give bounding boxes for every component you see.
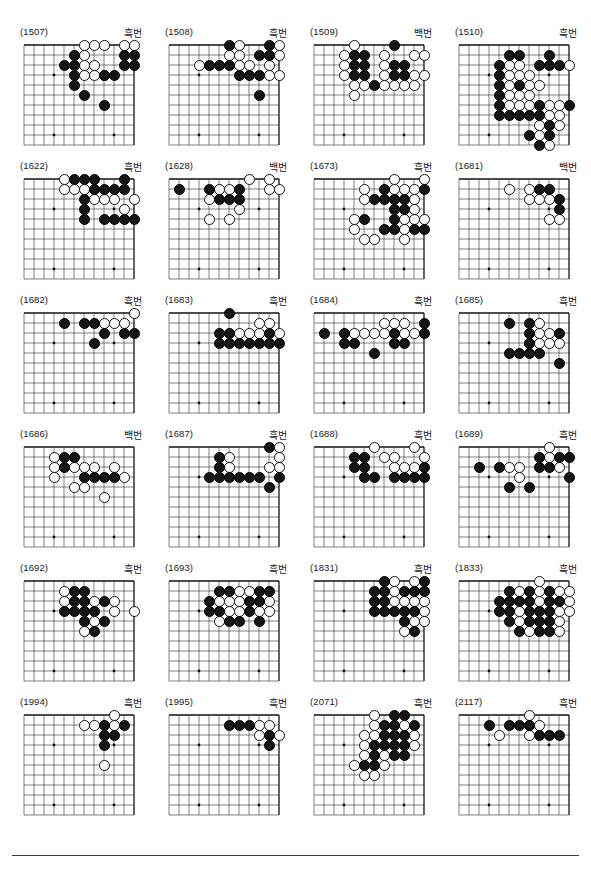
go-board[interactable] xyxy=(165,443,288,557)
black-stone xyxy=(99,596,110,607)
black-stone xyxy=(234,184,245,195)
black-stone xyxy=(319,328,330,339)
white-stone xyxy=(544,452,555,463)
problem-number: (1681) xyxy=(455,160,483,171)
white-stone xyxy=(119,318,130,329)
go-board[interactable] xyxy=(20,175,143,289)
turn-label: 흑번 xyxy=(124,695,142,710)
black-stone xyxy=(359,214,370,225)
black-stone xyxy=(214,586,225,597)
white-stone xyxy=(524,184,535,195)
white-stone xyxy=(224,184,235,195)
black-stone xyxy=(369,472,380,483)
white-stone xyxy=(409,328,420,339)
turn-label: 흑번 xyxy=(269,427,287,442)
go-board[interactable] xyxy=(165,175,288,289)
black-stone xyxy=(379,596,390,607)
black-stone xyxy=(274,472,285,483)
white-stone xyxy=(89,616,100,627)
black-stone xyxy=(339,328,350,339)
black-stone xyxy=(349,338,360,349)
black-stone xyxy=(379,586,390,597)
problem-header: (1995)흑번 xyxy=(165,696,287,711)
white-stone xyxy=(419,616,430,627)
white-stone xyxy=(349,224,360,235)
black-stone xyxy=(254,50,265,61)
black-stone xyxy=(59,60,70,71)
black-stone xyxy=(534,730,545,741)
black-stone xyxy=(119,50,130,61)
black-stone xyxy=(389,606,400,617)
go-board[interactable] xyxy=(20,443,143,557)
problem-header: (1833)흑번 xyxy=(455,562,577,577)
problem-header: (2117)흑번 xyxy=(455,696,577,711)
white-stone xyxy=(359,328,370,339)
go-board[interactable] xyxy=(20,41,143,155)
black-stone xyxy=(99,184,110,195)
go-board[interactable] xyxy=(310,711,433,825)
white-stone xyxy=(89,40,100,51)
white-stone xyxy=(79,40,90,51)
go-board[interactable] xyxy=(310,443,433,557)
black-stone xyxy=(524,130,535,141)
go-board[interactable] xyxy=(20,309,143,423)
white-stone xyxy=(359,194,370,205)
problem-panel: (2071)흑번 xyxy=(310,696,453,830)
go-board[interactable] xyxy=(165,41,288,155)
problem-header: (1508)흑번 xyxy=(165,26,287,41)
go-board[interactable] xyxy=(455,309,578,423)
go-board[interactable] xyxy=(20,711,143,825)
go-board[interactable] xyxy=(165,309,288,423)
go-board[interactable] xyxy=(20,577,143,691)
white-stone xyxy=(274,50,285,61)
problem-number: (1628) xyxy=(165,160,193,171)
black-stone xyxy=(534,110,545,121)
white-stone xyxy=(359,770,370,781)
white-stone xyxy=(379,60,390,71)
white-stone xyxy=(359,80,370,91)
black-stone xyxy=(79,606,90,617)
white-stone xyxy=(504,80,515,91)
go-board[interactable] xyxy=(455,711,578,825)
white-stone xyxy=(389,80,400,91)
black-stone xyxy=(349,462,360,473)
problem-header: (1688)흑번 xyxy=(310,428,432,443)
go-board[interactable] xyxy=(455,577,578,691)
black-stone xyxy=(224,472,235,483)
black-stone xyxy=(214,472,225,483)
go-board[interactable] xyxy=(310,41,433,155)
white-stone xyxy=(369,770,380,781)
white-stone xyxy=(399,596,410,607)
white-stone xyxy=(554,120,565,131)
go-board[interactable] xyxy=(165,577,288,691)
white-stone xyxy=(264,174,275,185)
white-stone xyxy=(544,194,555,205)
go-board[interactable] xyxy=(310,577,433,691)
go-board[interactable] xyxy=(310,309,433,423)
white-stone xyxy=(69,184,80,195)
black-stone xyxy=(264,586,275,597)
white-stone xyxy=(129,308,140,319)
go-board[interactable] xyxy=(455,41,578,155)
white-stone xyxy=(49,452,60,463)
turn-label: 흑번 xyxy=(269,293,287,308)
white-stone xyxy=(89,60,100,71)
white-stone xyxy=(224,50,235,61)
white-stone xyxy=(534,318,545,329)
white-stone xyxy=(399,318,410,329)
problem-header: (1685)흑번 xyxy=(455,294,577,309)
black-stone xyxy=(389,40,400,51)
black-stone xyxy=(349,60,360,71)
go-board[interactable] xyxy=(310,175,433,289)
black-stone xyxy=(409,626,420,637)
go-board[interactable] xyxy=(455,443,578,557)
black-stone xyxy=(359,760,370,771)
black-stone xyxy=(339,338,350,349)
black-stone xyxy=(389,338,400,349)
black-stone xyxy=(544,462,555,473)
go-board[interactable] xyxy=(165,711,288,825)
problem-number: (1995) xyxy=(165,696,193,707)
black-stone xyxy=(69,174,80,185)
white-stone xyxy=(49,462,60,473)
go-board[interactable] xyxy=(455,175,578,289)
